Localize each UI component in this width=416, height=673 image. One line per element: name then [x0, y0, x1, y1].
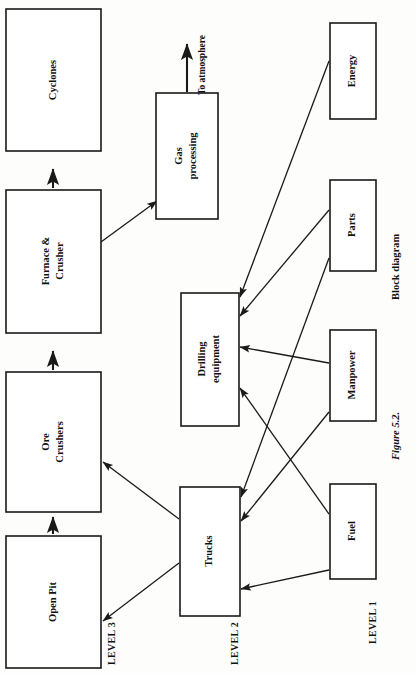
- node-drilling-equipment[interactable]: Drilling equipment: [181, 293, 239, 426]
- figure-caption: Block diagram: [390, 234, 401, 300]
- svg-text:Figure 5.2.: Figure 5.2.: [390, 412, 401, 461]
- svg-text:Cyclones: Cyclones: [47, 60, 58, 100]
- node-cyclones-label: Cyclones: [47, 60, 58, 100]
- svg-text:Open Pit: Open Pit: [47, 582, 58, 622]
- node-open-pit-label: Open Pit: [47, 582, 58, 622]
- node-ore-crushers-label: Ore: [40, 433, 51, 451]
- node-parts[interactable]: Parts: [330, 180, 376, 271]
- edge-trucks-to-ore: [103, 462, 179, 519]
- node-ore-crushers-label2: Crushers: [54, 421, 65, 462]
- level-2-label: LEVEL 2: [229, 622, 240, 665]
- to-atmosphere-label: To atmosphere: [197, 35, 207, 95]
- node-cyclones[interactable]: Cyclones: [6, 9, 101, 151]
- level-3-label: LEVEL 3: [106, 622, 117, 665]
- node-trucks[interactable]: Trucks: [180, 487, 240, 616]
- node-gas-processing[interactable]: Gas processing: [156, 93, 218, 219]
- node-manpower-label: Manpower: [346, 350, 357, 399]
- svg-text:LEVEL 3: LEVEL 3: [106, 622, 117, 665]
- svg-text:Parts: Parts: [346, 213, 357, 237]
- node-ore-crushers[interactable]: Ore Crushers: [6, 372, 101, 512]
- svg-text:Manpower: Manpower: [346, 350, 357, 399]
- edge-parts-to-trucks: [241, 258, 329, 497]
- node-gas-processing-label2: processing: [187, 132, 198, 180]
- svg-text:Energy: Energy: [346, 54, 357, 87]
- svg-text:To atmosphere: To atmosphere: [197, 35, 207, 95]
- edge-energy-to-drilling: [240, 61, 329, 297]
- node-energy[interactable]: Energy: [330, 23, 376, 119]
- figure-page: Cyclones Furnace & Crusher Ore Crushers …: [0, 0, 416, 673]
- node-furnace-crusher[interactable]: Furnace & Crusher: [6, 190, 101, 333]
- svg-text:Fuel: Fuel: [346, 521, 357, 541]
- svg-text:Block diagram: Block diagram: [390, 234, 401, 300]
- node-drilling-equipment-label: Drilling: [196, 341, 207, 377]
- node-manpower[interactable]: Manpower: [330, 330, 376, 421]
- node-furnace-crusher-label: Furnace &: [40, 236, 51, 285]
- nodes-layer: Cyclones Furnace & Crusher Ore Crushers …: [6, 9, 376, 668]
- edge-furnace-to-gas: [101, 201, 157, 242]
- node-gas-processing-label: Gas: [173, 147, 184, 165]
- svg-text:LEVEL 2: LEVEL 2: [229, 622, 240, 665]
- node-trucks-label: Trucks: [203, 535, 214, 566]
- edge-manpower-to-drilling: [240, 347, 329, 363]
- level-1-label: LEVEL 1: [367, 601, 378, 644]
- node-furnace-crusher-label2: Crusher: [54, 242, 65, 280]
- edge-manpower-to-trucks: [241, 412, 329, 521]
- block-diagram-svg: Cyclones Furnace & Crusher Ore Crushers …: [0, 0, 416, 673]
- svg-text:LEVEL 1: LEVEL 1: [367, 601, 378, 644]
- svg-text:Trucks: Trucks: [203, 535, 214, 566]
- node-open-pit[interactable]: Open Pit: [6, 536, 101, 668]
- edge-fuel-to-drilling: [240, 388, 329, 514]
- node-fuel-label: Fuel: [346, 521, 357, 541]
- figure-number: Figure 5.2.: [390, 412, 401, 461]
- edge-trucks-to-openpit: [103, 563, 179, 621]
- node-energy-label: Energy: [346, 54, 357, 87]
- node-parts-label: Parts: [346, 213, 357, 237]
- node-fuel[interactable]: Fuel: [330, 484, 376, 579]
- node-drilling-equipment-label2: equipment: [210, 335, 221, 383]
- edge-fuel-to-trucks: [241, 570, 329, 589]
